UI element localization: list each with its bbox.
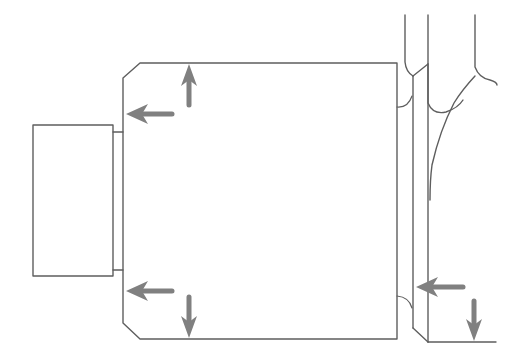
arrow-bottom-down-icon <box>181 297 197 338</box>
arrow-top-left-icon <box>126 104 172 124</box>
arrow-top-up-icon <box>181 64 197 105</box>
arrow-right-left-icon <box>416 277 463 297</box>
connector <box>113 132 123 270</box>
tube-right <box>428 15 497 200</box>
arrow-bottom-left-icon <box>126 281 172 301</box>
arrow-right-down-icon <box>466 301 482 341</box>
left-block <box>33 125 113 276</box>
thin-plate <box>397 15 496 342</box>
tube-left <box>405 15 428 76</box>
cross-section-diagram <box>0 0 524 355</box>
main-block <box>123 63 397 339</box>
